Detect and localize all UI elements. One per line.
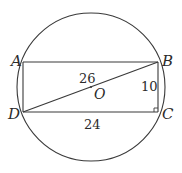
right-angle-marker xyxy=(154,108,158,112)
center-point-o xyxy=(90,86,92,88)
measurement-dc: 24 xyxy=(84,117,101,132)
vertex-label-b: B xyxy=(161,52,173,70)
geometry-diagram: A B C D O 26 10 24 xyxy=(0,0,182,173)
center-label-o: O xyxy=(94,86,106,102)
measurement-bc: 10 xyxy=(141,79,158,94)
vertex-label-c: C xyxy=(162,105,174,123)
measurement-db: 26 xyxy=(79,71,96,86)
vertex-label-d: D xyxy=(7,105,20,123)
vertex-label-a: A xyxy=(9,52,22,70)
